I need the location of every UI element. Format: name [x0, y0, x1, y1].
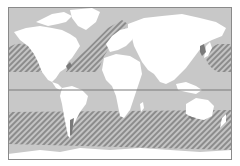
world-map — [8, 7, 232, 160]
world-map-svg — [8, 7, 232, 160]
